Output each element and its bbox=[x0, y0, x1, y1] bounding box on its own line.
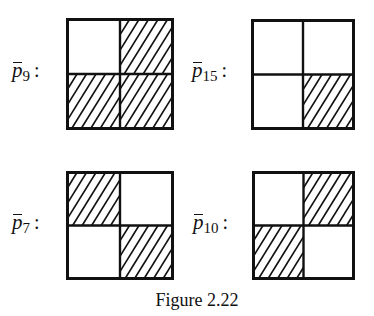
label-p10: p10: bbox=[193, 212, 228, 236]
p-bar-symbol: p bbox=[193, 212, 204, 233]
overbar bbox=[194, 214, 203, 215]
label-colon: : bbox=[222, 59, 228, 81]
overbar bbox=[193, 62, 202, 63]
label-subscript: 15 bbox=[203, 68, 218, 84]
p-bar-symbol: p bbox=[12, 212, 23, 233]
label-subscript: 7 bbox=[23, 220, 31, 236]
grid-p10 bbox=[252, 171, 355, 280]
hatch-bottom-right bbox=[260, 75, 355, 129]
overbar bbox=[13, 214, 22, 215]
overbar bbox=[13, 62, 22, 63]
hatch-top-left bbox=[66, 173, 153, 226]
hatch-bottom-right bbox=[78, 226, 174, 279]
grid-p9 bbox=[66, 18, 174, 130]
hatch-bottom-left bbox=[252, 226, 339, 279]
grid-p7 bbox=[66, 171, 174, 280]
label-colon: : bbox=[223, 211, 229, 233]
p-bar-symbol: p bbox=[192, 60, 203, 81]
hatch-top-right bbox=[77, 20, 174, 75]
label-subscript: 10 bbox=[204, 220, 219, 236]
figure-caption: Figure 2.22 bbox=[0, 290, 374, 311]
p-bar-symbol: p bbox=[12, 60, 23, 81]
label-subscript: 9 bbox=[23, 68, 31, 84]
label-colon: : bbox=[34, 211, 40, 233]
label-p7: p7: bbox=[12, 212, 40, 236]
grid-p15 bbox=[251, 19, 355, 130]
label-colon: : bbox=[34, 59, 40, 81]
hatch-top-right bbox=[261, 173, 355, 226]
label-p15: p15: bbox=[192, 60, 227, 84]
label-p9: p9: bbox=[12, 60, 40, 84]
